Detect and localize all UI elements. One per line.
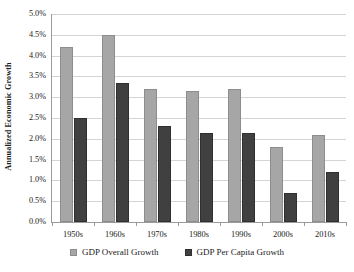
bar <box>312 135 325 222</box>
y-axis-tick-label: 3.5% <box>29 72 46 80</box>
x-axis-tick <box>52 222 53 226</box>
y-axis-tick-label: 4.0% <box>29 51 46 59</box>
x-axis-tick-labels: 1950s1960s1970s1980s1990s2000s2010s <box>52 228 346 242</box>
y-axis-tick-label: 4.5% <box>29 31 46 39</box>
legend: GDP Overall GrowthGDP Per Capita Growth <box>0 248 354 257</box>
y-axis-tick-label: 1.0% <box>29 176 46 184</box>
x-axis-tick <box>220 222 221 226</box>
y-axis-tick-label: 3.0% <box>29 93 46 101</box>
bar <box>326 172 339 222</box>
y-axis-tick-label: 0.0% <box>29 218 46 226</box>
y-axis-tick-labels: 5.0%4.5%4.0%3.5%3.0%2.5%2.0%1.5%1.0%0.5%… <box>14 0 50 232</box>
x-axis-tick-label: 1960s <box>105 228 125 241</box>
x-axis-tick <box>262 222 263 226</box>
y-axis-tick-label: 2.5% <box>29 114 46 122</box>
legend-swatch-icon <box>70 249 77 256</box>
x-axis-tick-label: 1970s <box>147 228 167 241</box>
x-axis-tick-label: 1950s <box>63 228 83 241</box>
x-axis-tick <box>94 222 95 226</box>
y-axis-title-label: Annualized Economic Growth <box>4 62 13 170</box>
x-axis-tick <box>346 222 347 226</box>
x-axis-tick <box>304 222 305 226</box>
plot-area <box>52 14 346 222</box>
bar-chart: Annualized Economic Growth 5.0%4.5%4.0%3… <box>0 0 354 272</box>
legend-item[interactable]: GDP Per Capita Growth <box>185 248 284 257</box>
legend-item[interactable]: GDP Overall Growth <box>70 248 159 257</box>
x-axis-tick-label: 1980s <box>189 228 209 241</box>
y-axis-tick-label: 0.5% <box>29 197 46 205</box>
x-axis-tick <box>178 222 179 226</box>
x-axis-tick-label: 2000s <box>273 228 293 241</box>
x-axis-ticks <box>52 222 346 227</box>
y-axis-tick-label: 5.0% <box>29 10 46 18</box>
x-axis-tick-label: 2010s <box>315 228 335 241</box>
y-axis-tick-label: 1.5% <box>29 155 46 163</box>
x-axis-tick <box>136 222 137 226</box>
legend-label: GDP Per Capita Growth <box>197 248 284 257</box>
x-axis-tick-label: 1990s <box>231 228 251 241</box>
bar-group <box>52 14 346 222</box>
legend-swatch-icon <box>185 249 192 256</box>
legend-label: GDP Overall Growth <box>82 248 159 257</box>
bars-layer <box>52 14 346 222</box>
y-axis-tick-label: 2.0% <box>29 135 46 143</box>
